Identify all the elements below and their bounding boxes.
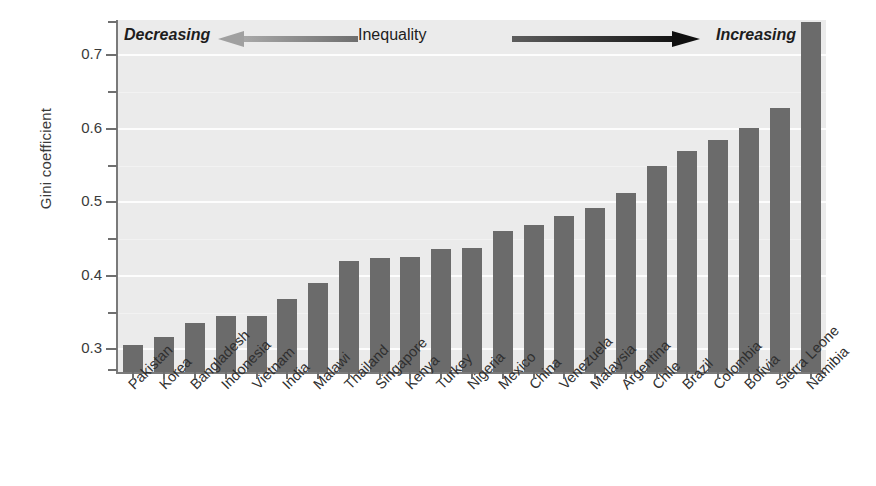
gini-coefficient-bar-chart: Gini coefficient 0.30.40.50.60.7 Decreas… [0, 0, 876, 486]
x-axis-tick [348, 372, 350, 379]
x-axis-tick [132, 372, 134, 379]
x-axis-tick [717, 372, 719, 379]
y-axis-tick [106, 128, 117, 130]
x-axis-tick [379, 372, 381, 379]
x-axis-tick [686, 372, 688, 379]
x-axis-tick [225, 372, 227, 379]
y-axis-tick-minor [108, 21, 117, 23]
x-axis-tick [317, 372, 319, 379]
y-axis-tick [106, 54, 117, 56]
y-axis-tick-minor [108, 238, 117, 240]
x-axis-tick [563, 372, 565, 379]
x-axis-tick [471, 372, 473, 379]
x-axis-tick [502, 372, 504, 379]
x-axis-tick [286, 372, 288, 379]
y-axis-tick [106, 201, 117, 203]
x-axis-tick [748, 372, 750, 379]
x-axis-tick [625, 372, 627, 379]
x-axis-tick [656, 372, 658, 379]
x-axis-tick [533, 372, 535, 379]
y-axis-tick-minor [108, 369, 117, 371]
x-axis-tick [810, 372, 812, 379]
x-axis-tick [163, 372, 165, 379]
x-axis-category-label: Brazil [679, 355, 716, 392]
y-axis-tick-minor [108, 312, 117, 314]
x-axis-tick [256, 372, 258, 379]
x-axis-category-labels: PakistanKoreaBangladeshIndonesiaVietnamI… [0, 0, 876, 486]
y-axis-tick-minor [108, 165, 117, 167]
y-axis-tick [106, 348, 117, 350]
y-axis-tick-minor [108, 91, 117, 93]
x-axis-tick [440, 372, 442, 379]
x-axis-tick [409, 372, 411, 379]
x-axis-tick [594, 372, 596, 379]
x-axis-tick [194, 372, 196, 379]
y-axis-tick [106, 275, 117, 277]
x-axis-tick [779, 372, 781, 379]
